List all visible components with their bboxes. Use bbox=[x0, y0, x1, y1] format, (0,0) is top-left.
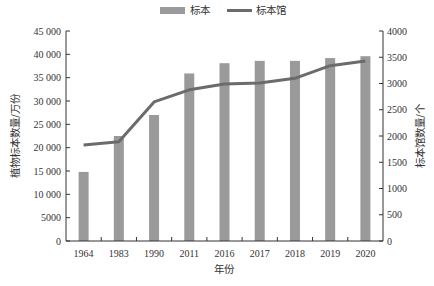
x-tick-label: 2017 bbox=[250, 248, 270, 259]
legend: 标本 标本馆 bbox=[160, 4, 286, 16]
left-tick-label: 45 000 bbox=[34, 26, 62, 37]
x-tick-label: 1964 bbox=[74, 248, 94, 259]
bar bbox=[149, 115, 159, 241]
bar bbox=[114, 136, 124, 241]
bar bbox=[360, 56, 370, 241]
bar bbox=[325, 58, 335, 241]
right-tick-label: 2500 bbox=[387, 104, 407, 115]
x-tick-label: 2019 bbox=[320, 248, 340, 259]
x-tick-label: 2011 bbox=[179, 248, 199, 259]
right-tick-label: 500 bbox=[387, 209, 402, 220]
left-tick-label: 30 000 bbox=[34, 96, 62, 107]
bar bbox=[79, 172, 89, 241]
x-tick-label: 1983 bbox=[109, 248, 129, 259]
right-tick-label: 1000 bbox=[387, 183, 407, 194]
legend-bar-label: 标本 bbox=[190, 4, 211, 16]
bar bbox=[255, 61, 265, 241]
x-tick-label: 2016 bbox=[215, 248, 235, 259]
x-tick-label: 2020 bbox=[355, 248, 375, 259]
bar bbox=[220, 63, 230, 241]
left-tick-label: 40 000 bbox=[34, 49, 62, 60]
x-axis-title: 年份 bbox=[214, 263, 235, 275]
right-tick-label: 1500 bbox=[387, 157, 407, 168]
right-tick-label: 3500 bbox=[387, 52, 407, 63]
legend-line-label: 标本馆 bbox=[256, 4, 286, 16]
left-tick-label: 5000 bbox=[41, 212, 61, 223]
left-tick-label: 35 000 bbox=[34, 72, 62, 83]
x-tick-label: 2018 bbox=[285, 248, 305, 259]
left-tick-label: 15 000 bbox=[34, 166, 62, 177]
combo-chart: 标本 标本馆 0500010 00015 00020 00025 00030 0… bbox=[0, 0, 434, 286]
right-axis-title: 标本馆数量/个 bbox=[414, 103, 426, 168]
bar bbox=[290, 61, 300, 241]
right-tick-label: 0 bbox=[387, 236, 392, 247]
left-tick-label: 0 bbox=[56, 236, 61, 247]
left-tick-label: 20 000 bbox=[34, 142, 62, 153]
x-tick-label: 1990 bbox=[144, 248, 164, 259]
left-tick-label: 10 000 bbox=[34, 189, 62, 200]
right-tick-label: 2000 bbox=[387, 131, 407, 142]
bar bbox=[184, 73, 194, 241]
left-axis-title: 植物标本数量/万份 bbox=[9, 93, 21, 178]
left-tick-label: 25 000 bbox=[34, 119, 62, 130]
right-tick-label: 3000 bbox=[387, 78, 407, 89]
left-axis-ticks: 0500010 00015 00020 00025 00030 00035 00… bbox=[34, 26, 71, 247]
right-tick-label: 4000 bbox=[387, 26, 407, 37]
legend-bar-swatch bbox=[160, 7, 185, 14]
